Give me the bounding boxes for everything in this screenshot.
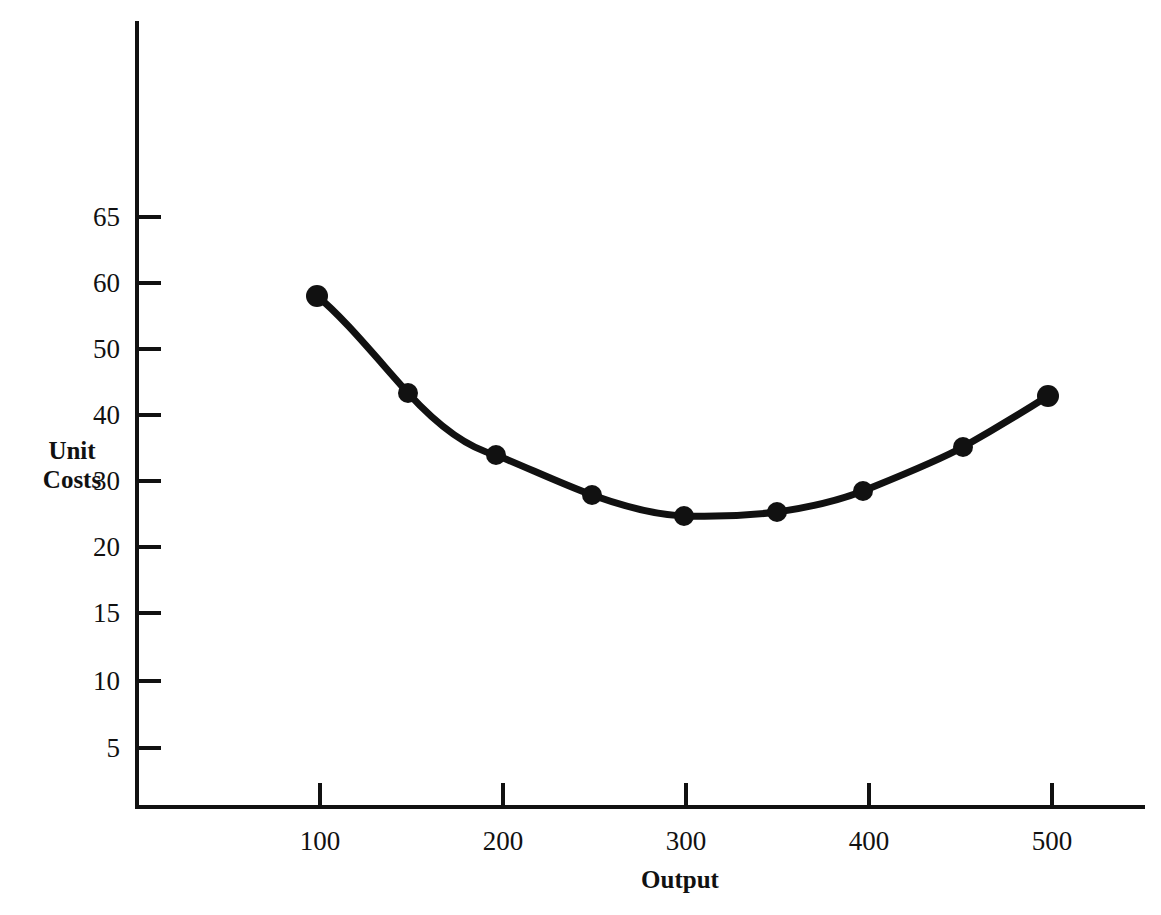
- data-point-400: [853, 481, 873, 501]
- y-axis-ticks: [137, 217, 161, 748]
- data-point-200: [486, 445, 506, 465]
- unit-costs-curve: [317, 296, 1048, 516]
- data-point-455: [953, 437, 973, 457]
- y-tick-label-50: 50: [60, 336, 120, 363]
- unit-cost-curve-figure: 65 60 50 40 30 20 15 10 5 100 200 300 40…: [0, 0, 1161, 915]
- data-point-150: [398, 383, 418, 403]
- data-point-500: [1037, 385, 1059, 407]
- x-tick-label-200: 200: [483, 828, 524, 855]
- y-tick-label-65: 65: [60, 204, 120, 231]
- y-axis-title-line-2: Costs: [22, 466, 122, 495]
- data-point-250: [582, 485, 602, 505]
- data-point-350: [767, 502, 787, 522]
- y-tick-label-5: 5: [60, 735, 120, 762]
- y-tick-label-40: 40: [60, 402, 120, 429]
- x-axis-ticks: [320, 783, 1052, 807]
- y-tick-label-60: 60: [60, 270, 120, 297]
- chart-plot-area: [0, 0, 1161, 915]
- data-point-100: [306, 285, 328, 307]
- x-tick-label-500: 500: [1032, 828, 1073, 855]
- y-axis-title-line-1: Unit: [22, 437, 122, 466]
- y-tick-label-20: 20: [60, 534, 120, 561]
- x-tick-label-100: 100: [300, 828, 341, 855]
- x-tick-label-300: 300: [666, 828, 707, 855]
- y-tick-label-15: 15: [60, 600, 120, 627]
- x-axis-title: Output: [641, 866, 719, 894]
- y-axis-title: Unit Costs: [22, 437, 122, 495]
- data-point-300: [674, 506, 694, 526]
- y-tick-label-10: 10: [60, 668, 120, 695]
- x-tick-label-400: 400: [849, 828, 890, 855]
